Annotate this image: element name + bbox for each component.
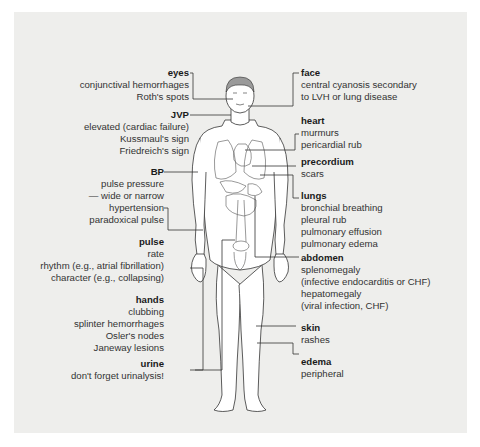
label-hands: hands clubbing splinter hemorrhages Osle… <box>74 294 164 354</box>
label-precordium: precordium scars <box>301 156 354 180</box>
label-abdomen: abdomen splenomegaly (infective endocard… <box>301 252 431 312</box>
label-line: paradoxical pulse <box>89 214 164 226</box>
label-line: Roth's spots <box>80 91 189 103</box>
label-bp: BP pulse pressure — wide or narrow hyper… <box>89 166 164 226</box>
label-line: hepatomegaly <box>301 288 431 300</box>
label-line: don't forget urinalysis! <box>71 370 164 382</box>
label-line: conjunctival hemorrhages <box>80 79 189 91</box>
label-line: rashes <box>301 334 330 346</box>
label-heading: lungs <box>301 190 383 202</box>
label-line: pulmonary edema <box>301 238 383 250</box>
label-line: rhythm (e.g., atrial fibrillation) <box>40 260 164 272</box>
label-heading: pulse <box>40 236 164 248</box>
label-heading: skin <box>301 322 330 334</box>
label-heading: eyes <box>80 67 189 79</box>
label-heading: face <box>301 67 417 79</box>
label-line: pericardial rub <box>301 139 362 151</box>
label-line: splenomegaly <box>301 264 431 276</box>
label-heading: precordium <box>301 156 354 168</box>
label-heading: heart <box>301 115 362 127</box>
label-heading: abdomen <box>301 252 431 264</box>
label-edema: edema peripheral <box>301 356 344 380</box>
label-line: hypertension <box>89 202 164 214</box>
label-line: (viral infection, CHF) <box>301 300 431 312</box>
label-line: Friedreich's sign <box>84 145 189 157</box>
label-heart: heart murmurs pericardial rub <box>301 115 362 151</box>
label-line: scars <box>301 168 354 180</box>
label-skin: skin rashes <box>301 322 330 346</box>
label-heading: urine <box>71 358 164 370</box>
label-heading: JVP <box>84 109 189 121</box>
label-line: bronchial breathing <box>301 202 383 214</box>
label-line: central cyanosis secondary <box>301 79 417 91</box>
label-line: (infective endocarditis or CHF) <box>301 276 431 288</box>
label-line: murmurs <box>301 127 362 139</box>
label-urine: urine don't forget urinalysis! <box>71 358 164 382</box>
label-heading: edema <box>301 356 344 368</box>
label-lungs: lungs bronchial breathing pleural rub pu… <box>301 190 383 250</box>
label-line: pleural rub <box>301 214 383 226</box>
label-line: clubbing <box>74 306 164 318</box>
label-line: rate <box>40 248 164 260</box>
label-pulse: pulse rate rhythm (e.g., atrial fibrilla… <box>40 236 164 284</box>
label-line: character (e.g., collapsing) <box>40 272 164 284</box>
label-line: pulmonary effusion <box>301 226 383 238</box>
label-line: peripheral <box>301 368 344 380</box>
label-line: to LVH or lung disease <box>301 91 417 103</box>
label-line: pulse pressure <box>89 178 164 190</box>
label-heading: hands <box>74 294 164 306</box>
label-line: Janeway lesions <box>74 342 164 354</box>
label-jvp: JVP elevated (cardiac failure) Kussmaul'… <box>84 109 189 157</box>
label-line: splinter hemorrhages <box>74 318 164 330</box>
label-line: Osler's nodes <box>74 330 164 342</box>
label-face: face central cyanosis secondary to LVH o… <box>301 67 417 103</box>
label-line: elevated (cardiac failure) <box>84 121 189 133</box>
label-eyes: eyes conjunctival hemorrhages Roth's spo… <box>80 67 189 103</box>
label-heading: BP <box>89 166 164 178</box>
label-line: — wide or narrow <box>89 190 164 202</box>
label-line: Kussmaul's sign <box>84 133 189 145</box>
